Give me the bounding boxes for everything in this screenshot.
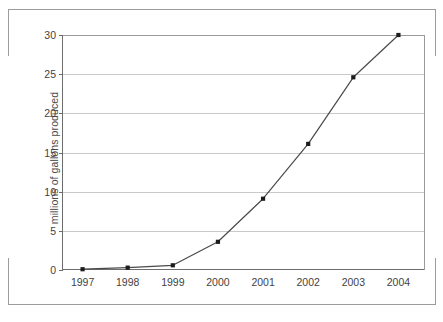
line-chart: millions of gallons produced 1997: 0.119… [0,0,443,322]
x-tick-label: 2001 [240,276,286,288]
y-tick-label: 10 [28,186,56,198]
data-point-marker: 2002: 16.1 [306,142,310,146]
x-tick-label: 2003 [330,276,376,288]
y-tick-label: 5 [28,225,56,237]
x-tick-label: 1997 [60,276,106,288]
series-line [83,35,399,269]
data-point-marker: 2003: 24.6 [351,75,355,79]
y-tick-label: 25 [28,68,56,80]
data-point-marker: 2000: 3.6 [216,240,220,244]
x-tick-label: 1999 [150,276,196,288]
y-tick-label: 15 [28,147,56,159]
x-tick-label: 1998 [105,276,151,288]
x-tick-label: 2002 [285,276,331,288]
data-point-marker: 1997: 0.1 [80,267,84,271]
data-point-marker: 1999: 0.6 [171,263,175,267]
y-tick-label: 20 [28,107,56,119]
y-tick-label: 30 [28,29,56,41]
x-tick-label: 2004 [375,276,421,288]
data-point-marker: 2001: 9.1 [261,197,265,201]
data-series-layer: 1997: 0.11998: 0.31999: 0.62000: 3.62001… [62,35,424,271]
x-tick-label: 2000 [195,276,241,288]
y-tick-label: 0 [28,264,56,276]
data-point-marker: 2004: 30 [396,33,400,37]
series-markers: 1997: 0.11998: 0.31999: 0.62000: 3.62001… [80,33,400,271]
data-point-marker: 1998: 0.3 [126,266,130,270]
